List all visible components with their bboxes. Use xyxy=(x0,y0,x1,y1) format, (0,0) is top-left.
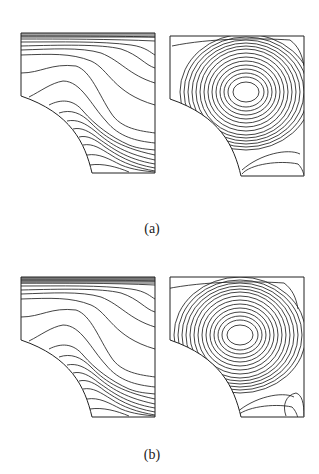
panel-a-left-isotherms xyxy=(21,33,155,173)
row-label-a: (a) xyxy=(132,221,172,237)
panel-b-right-streamlines xyxy=(166,277,306,418)
panel-a-right-streamlines xyxy=(170,34,312,176)
panel-b-left-isotherms xyxy=(21,277,155,417)
row-label-b: (b) xyxy=(132,447,172,463)
contour-figure xyxy=(0,0,319,474)
